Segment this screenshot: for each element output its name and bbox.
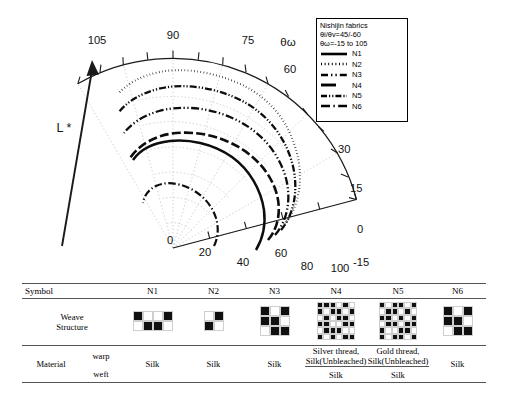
- weave-cell-N2: [183, 299, 244, 346]
- header-symbol: Symbol: [22, 284, 122, 299]
- table-bottom-rule: [22, 383, 486, 386]
- material-warp-N5: Gold thread,Silk(Unbleached): [367, 346, 429, 367]
- header-N5: N5: [367, 284, 429, 299]
- legend-label-N2: N2: [348, 60, 362, 69]
- legend-label-N4: N4: [348, 81, 362, 90]
- polar-outer-arc: [78, 51, 357, 200]
- rtick-0: 0: [167, 234, 173, 246]
- weave-pattern-N5: [379, 302, 417, 340]
- weave-cell-N5: [367, 299, 429, 346]
- rtick-60: 60: [275, 247, 287, 259]
- material-warp-row: Material warp Silk Silk Silk Silver thre…: [22, 346, 486, 367]
- legend-item-N3: N3: [320, 70, 404, 81]
- weave-cell-N1: [122, 299, 183, 346]
- table-header-row: Symbol N1 N2 N3 N4 N5 N6: [22, 284, 486, 299]
- legend-label-N1: N1: [348, 49, 362, 58]
- tick-neg15: -15: [353, 256, 369, 268]
- weave-pattern-N1: [133, 311, 173, 331]
- tick-15: 15: [350, 182, 362, 194]
- series-line-N1: [133, 141, 265, 250]
- legend-item-N6: N6: [320, 101, 404, 112]
- legend-title: Nishijin fabrics: [320, 21, 404, 30]
- tick-90: 90: [167, 29, 179, 41]
- fabric-specification-table: Symbol N1 N2 N3 N4 N5 N6 Weave Structure…: [22, 283, 486, 385]
- rtick-40: 40: [237, 256, 249, 268]
- legend-item-N4: N4: [320, 80, 404, 91]
- tick-0a: 0: [357, 223, 363, 235]
- weave-cell-N6: [429, 299, 486, 346]
- legend-swatch-N4: [320, 80, 348, 90]
- legend-label-N5: N5: [348, 91, 362, 100]
- legend-swatch-N3: [320, 70, 348, 80]
- weave-label-line1: Weave: [22, 312, 122, 322]
- header-N1: N1: [122, 284, 183, 299]
- legend-swatch-N5: [320, 91, 348, 101]
- radial-axis-label: L *: [57, 121, 72, 135]
- material-N3: Silk: [244, 346, 305, 383]
- angular-axis-label: θω: [280, 36, 295, 48]
- weft-label: weft: [80, 367, 122, 383]
- legend-swatch-N6: [320, 101, 348, 111]
- legend-item-N2: N2: [320, 59, 404, 70]
- weave-structure-label: Weave Structure: [22, 299, 122, 346]
- material-warp-N4-text: Silver thread,Silk(Unbleached): [306, 346, 367, 366]
- weave-pattern-N4: [317, 302, 355, 340]
- header-N3: N3: [244, 284, 305, 299]
- legend-item-N5: N5: [320, 91, 404, 102]
- header-N2: N2: [183, 284, 244, 299]
- weave-structure-row: Weave Structure: [22, 299, 486, 346]
- tick-75: 75: [242, 34, 254, 46]
- material-weft-N4: Silk: [305, 367, 367, 383]
- weave-pattern-N6: [443, 306, 473, 336]
- material-N2: Silk: [183, 346, 244, 383]
- weave-cell-N3: [244, 299, 305, 346]
- material-warp-N4: Silver thread,Silk(Unbleached): [305, 346, 367, 367]
- chart-legend: Nishijin fabrics θi/θv=45/-60 θω=-15 to …: [316, 18, 408, 122]
- tick-105: 105: [88, 34, 107, 46]
- weave-pattern-N3: [260, 306, 290, 336]
- series-line-N5: [119, 86, 295, 230]
- legend-swatch-N1: [320, 49, 348, 59]
- legend-condition-omega: θω=-15 to 105: [320, 39, 404, 48]
- polar-chart: 105 90 75 60 45 30 15 0 -15 0 20 40 60 8…: [0, 0, 508, 290]
- figure-root: 105 90 75 60 45 30 15 0 -15 0 20 40 60 8…: [0, 0, 508, 413]
- legend-swatch-N2: [320, 59, 348, 69]
- weave-cell-N4: [305, 299, 367, 346]
- tick-30: 30: [338, 143, 350, 155]
- polar-grid-circles: [137, 97, 283, 232]
- header-N4: N4: [305, 284, 367, 299]
- material-warp-N5-text: Gold thread,Silk(Unbleached): [368, 346, 429, 366]
- warp-label: warp: [80, 346, 122, 367]
- legend-item-N1: N1: [320, 49, 404, 60]
- material-N6: Silk: [429, 346, 486, 383]
- material-N1: Silk: [122, 346, 183, 383]
- rtick-20: 20: [199, 246, 211, 258]
- weave-pattern-N2: [204, 311, 224, 331]
- polar-grid-rays: [78, 58, 357, 248]
- header-N6: N6: [429, 284, 486, 299]
- legend-condition-angles: θi/θv=45/-60: [320, 30, 404, 39]
- tick-60: 60: [284, 63, 296, 75]
- rtick-100: 100: [331, 262, 350, 274]
- weave-label-line2: Structure: [22, 322, 122, 332]
- material-label: Material: [22, 346, 80, 383]
- legend-label-N6: N6: [348, 102, 362, 111]
- material-weft-N5: Silk: [367, 367, 429, 383]
- rtick-80: 80: [301, 260, 313, 272]
- legend-label-N3: N3: [348, 70, 362, 79]
